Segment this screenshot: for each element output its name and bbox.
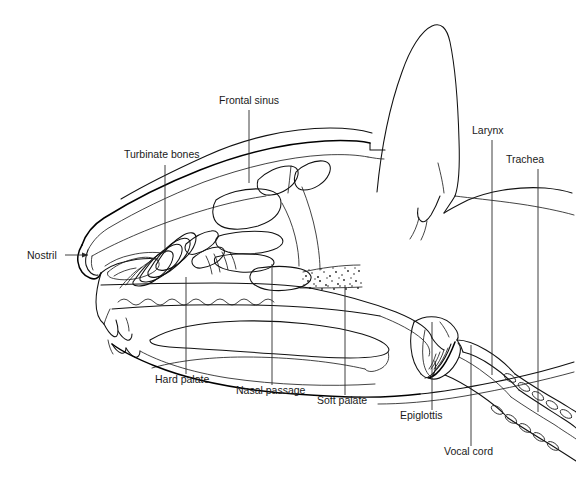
label-turbinate-bones: Turbinate bones	[124, 148, 200, 160]
label-soft-palate: Soft palate	[317, 394, 367, 406]
label-nostril: Nostril	[27, 249, 57, 261]
label-frontal-sinus: Frontal sinus	[219, 94, 279, 106]
respiratory-anatomy-diagram: Frontal sinusTurbinate bonesLarynxTrache…	[0, 0, 576, 484]
label-trachea: Trachea	[506, 153, 544, 165]
label-larynx: Larynx	[472, 124, 504, 136]
diagram-background	[0, 0, 576, 484]
label-epiglottis: Epiglottis	[400, 409, 443, 421]
label-vocal-cord: Vocal cord	[444, 445, 493, 457]
label-hard-palate: Hard palate	[155, 373, 209, 385]
label-nasal-passage: Nasal passage	[236, 384, 306, 396]
